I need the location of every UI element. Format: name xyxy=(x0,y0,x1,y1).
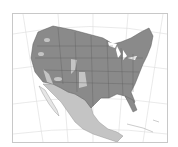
range-map xyxy=(13,14,167,142)
map-frame xyxy=(12,13,168,143)
